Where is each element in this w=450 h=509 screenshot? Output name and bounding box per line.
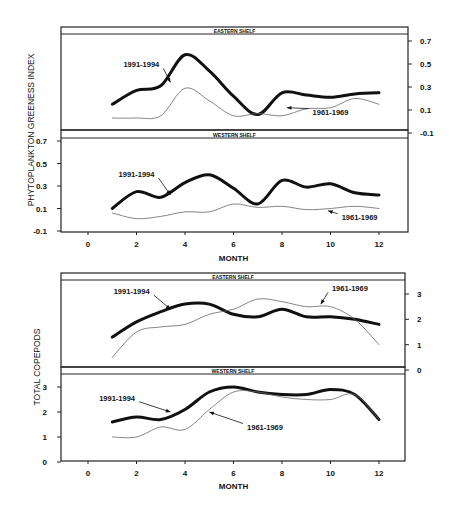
panel-title: WESTERN SHELF bbox=[212, 368, 255, 374]
x-tick-label: 4 bbox=[183, 469, 188, 478]
x-tick-label: 12 bbox=[375, 469, 384, 478]
series-line-1961-1969 bbox=[112, 299, 379, 358]
x-tick-label: 6 bbox=[231, 469, 236, 478]
y-tick-label: -0.1 bbox=[420, 129, 434, 138]
figure: PHYTOPLANKTON GREENESS INDEX TOTAL COPEP… bbox=[0, 0, 450, 509]
y-tick-label: 1 bbox=[43, 433, 48, 442]
x-tick-label: 8 bbox=[280, 240, 285, 249]
series-annotation: 1991-1994 bbox=[99, 394, 136, 403]
x-tick-label: 10 bbox=[326, 240, 335, 249]
y-tick-label: 0 bbox=[417, 366, 422, 375]
y-axis-right: 0123 bbox=[405, 290, 422, 375]
series-annotation: 1961-1969 bbox=[313, 108, 349, 117]
bottom-y-axis-label: TOTAL COPEPODS bbox=[32, 328, 42, 405]
x-tick-label: 6 bbox=[231, 240, 236, 249]
series-annotation: 1991-1994 bbox=[123, 60, 160, 69]
y-tick-label: 0.3 bbox=[36, 182, 48, 191]
series-annotation: 1961-1969 bbox=[247, 423, 283, 432]
y-tick-label: 0.7 bbox=[420, 37, 432, 46]
y-tick-label: 0 bbox=[43, 458, 48, 467]
y-tick-label: 0.5 bbox=[420, 60, 432, 69]
y-tick-label: 0.1 bbox=[420, 106, 432, 115]
arrowhead-icon bbox=[165, 409, 170, 413]
series-line-1961-1969 bbox=[112, 391, 379, 438]
arrowhead-icon bbox=[321, 299, 325, 304]
series-line-1991-1994 bbox=[112, 387, 379, 422]
panel-3: EASTERN SHELF01231991-19941961-1969 bbox=[61, 273, 422, 375]
panel-title: EASTERN SHELF bbox=[214, 28, 256, 34]
y-tick-label: 1 bbox=[417, 341, 422, 350]
y-tick-label: 3 bbox=[417, 290, 422, 299]
plot-frame bbox=[61, 27, 408, 130]
panel-title: EASTERN SHELF bbox=[212, 274, 254, 280]
x-tick-label: 2 bbox=[134, 469, 139, 478]
x-tick-label: 0 bbox=[86, 240, 91, 249]
panel-4: WESTERN SHELF0123024681012MONTH1991-1994… bbox=[43, 367, 405, 491]
y-tick-label: 0.5 bbox=[36, 160, 48, 169]
series-line-1991-1994 bbox=[112, 175, 379, 209]
y-axis-left: 0123 bbox=[43, 383, 61, 467]
series-annotation: 1961-1969 bbox=[342, 213, 378, 222]
top-y-axis-label: PHYTOPLANKTON GREENESS INDEX bbox=[26, 53, 36, 206]
series-annotation: 1991-1994 bbox=[114, 287, 151, 296]
arrowhead-icon bbox=[328, 210, 333, 214]
x-axis: 024681012MONTH bbox=[86, 461, 384, 491]
annotation-arrow bbox=[209, 412, 243, 424]
y-tick-label: 3 bbox=[43, 383, 48, 392]
y-tick-label: 2 bbox=[43, 408, 48, 417]
x-tick-label: 8 bbox=[280, 469, 285, 478]
x-tick-label: 10 bbox=[326, 469, 335, 478]
series-annotation: 1961-1969 bbox=[332, 284, 368, 293]
y-tick-label: 0.7 bbox=[36, 137, 48, 146]
y-tick-label: 0.1 bbox=[36, 205, 48, 214]
x-tick-label: 0 bbox=[86, 469, 91, 478]
arrowhead-icon bbox=[209, 412, 214, 416]
series-annotation: 1991-1994 bbox=[119, 170, 156, 179]
panel-2: WESTERN SHELF-0.10.10.30.50.7024681012MO… bbox=[33, 130, 408, 263]
panel-title: WESTERN SHELF bbox=[213, 132, 256, 138]
series-line-1961-1969 bbox=[112, 204, 379, 219]
series-line-1991-1994 bbox=[112, 303, 379, 337]
x-tick-label: 12 bbox=[375, 240, 384, 249]
x-tick-label: 2 bbox=[134, 240, 139, 249]
annotation-arrow bbox=[139, 402, 170, 412]
arrowhead-icon bbox=[287, 106, 292, 110]
panel-1: EASTERN SHELF-0.10.10.30.50.71991-199419… bbox=[61, 27, 434, 138]
y-tick-label: 0.3 bbox=[420, 83, 432, 92]
x-axis-label: MONTH bbox=[219, 254, 249, 263]
x-tick-label: 4 bbox=[183, 240, 188, 249]
y-axis-right: -0.10.10.30.50.7 bbox=[408, 37, 434, 138]
x-axis: 024681012MONTH bbox=[86, 232, 384, 263]
y-tick-label: 2 bbox=[417, 315, 422, 324]
y-axis-left: -0.10.10.30.50.7 bbox=[33, 137, 61, 236]
plot-frame bbox=[61, 367, 405, 461]
x-axis-label: MONTH bbox=[219, 482, 249, 491]
y-tick-label: -0.1 bbox=[33, 227, 47, 236]
